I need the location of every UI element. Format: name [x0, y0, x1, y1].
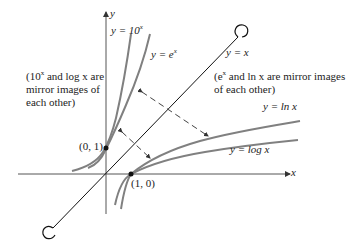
x-axis-label: x [291, 166, 296, 179]
label-point-0-1: (0, 1) [79, 140, 103, 153]
mirror-dash-exp-ln [142, 92, 208, 136]
label-identity: y = x [226, 46, 249, 59]
diagram-canvas [0, 0, 356, 250]
label-log: y = log x [230, 143, 270, 156]
label-pow10: y = 10x [111, 24, 143, 37]
mirror-dash-pow10-log [122, 132, 150, 158]
note-left: (10x and log x are mirror images of each… [26, 70, 104, 109]
label-exp: y = ex [151, 48, 177, 61]
logarithm-exponential-diagram: y x y = 10x y = ex y = x y = ln x y = lo… [0, 0, 356, 250]
curve-ln [115, 121, 300, 205]
y-axis-label: y [110, 7, 115, 20]
loop-end-top-icon [235, 25, 248, 37]
label-point-1-0: (1, 0) [131, 177, 155, 190]
point-0-1 [104, 146, 109, 151]
label-ln: y = ln x [263, 100, 297, 113]
point-1-0 [129, 172, 134, 177]
loop-end-bottom-icon [43, 226, 55, 238]
identity-line [53, 37, 238, 228]
note-right: (ex and ln x are mirror images of each o… [214, 70, 345, 96]
